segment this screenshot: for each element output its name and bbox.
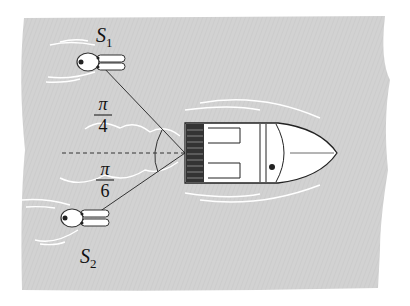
stern-grille [186, 124, 204, 182]
tug-s1 [77, 53, 125, 71]
angle-top-numerator: π [98, 94, 108, 114]
angle-bottom-denominator: 6 [101, 181, 110, 201]
diagram: S1 S2 π 4 π 6 [0, 0, 410, 306]
angle-top-denominator: 4 [99, 116, 108, 136]
angle-bottom-numerator: π [100, 159, 110, 179]
